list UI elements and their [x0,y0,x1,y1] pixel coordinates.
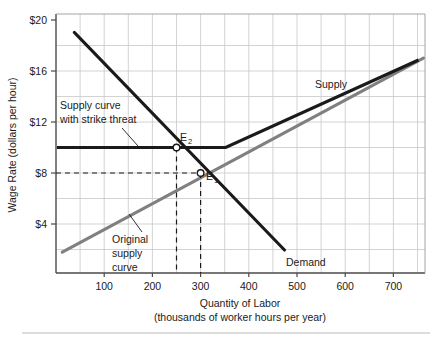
y-tick-label-4: $4 [35,218,47,230]
demand-label: Demand [286,256,326,268]
x-tick-label-100: 100 [95,280,113,292]
x-tick-label-300: 300 [192,280,210,292]
y-tick-label-8: $8 [35,167,47,179]
y-axis-title: Wage Rate (dollars per hour) [6,77,18,212]
e1-marker [197,170,204,177]
x-axis-title: Quantity of Labor [200,297,281,309]
supply-label: Supply [315,78,348,90]
x-tick-label-500: 500 [288,280,306,292]
y-tick-label-16: $16 [29,65,47,77]
original-supply-label-line2: supply [112,247,143,259]
x-axis-subtitle: (thousands of worker hours per year) [154,311,326,323]
e2-label-base: E [180,131,187,143]
y-tick-label-20: $20 [29,14,47,26]
x-tick-label-600: 600 [336,280,354,292]
strike-threat-label-line1: Supply curve [60,99,121,111]
original-supply-label-line3: curve [112,261,138,273]
original-supply-label-line1: Original [112,233,148,245]
e2-label-subscript: 2 [188,137,192,146]
economics-figure: $20 $16 $12 $8 $4 100 200 300 400 500 60… [0,0,442,337]
x-tick-label-700: 700 [385,280,403,292]
chart-svg: $20 $16 $12 $8 $4 100 200 300 400 500 60… [0,0,442,337]
e1-label-subscript: 1 [214,176,218,185]
strike-threat-label-line2: with strike threat [59,113,137,125]
x-tick-label-400: 400 [240,280,258,292]
e1-label-base: E [206,170,213,182]
y-tick-label-12: $12 [29,116,47,128]
x-tick-label-200: 200 [144,280,162,292]
e2-marker [173,144,180,151]
